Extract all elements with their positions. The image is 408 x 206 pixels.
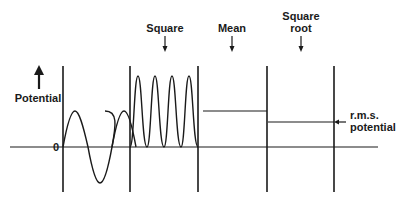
down-arrow-icon-square [163, 36, 168, 52]
down-arrow-icon-square-root [299, 36, 304, 52]
step-label-square-root-line1: Square [276, 10, 326, 22]
step-label-square: Square [140, 22, 190, 34]
down-arrow-icon-mean [230, 36, 235, 52]
step-label-mean: Mean [212, 22, 252, 34]
zero-label: 0 [51, 141, 61, 153]
rms-diagram: Potential 0 Square Mean Square root r.m.… [0, 0, 408, 206]
result-label-line2: potential [350, 121, 396, 133]
up-arrow-icon [34, 65, 44, 89]
y-axis-label: Potential [8, 92, 68, 104]
step-label-square-root-line2: root [276, 22, 326, 34]
left-arrow-icon-rms [334, 120, 346, 125]
squared-wave [130, 76, 198, 147]
sine-wave-tail [105, 111, 115, 147]
result-label-line1: r.m.s. [350, 109, 379, 121]
